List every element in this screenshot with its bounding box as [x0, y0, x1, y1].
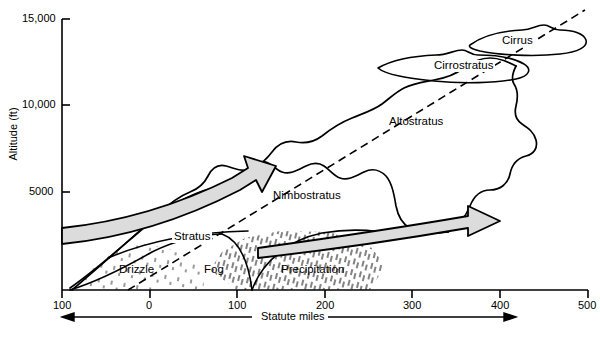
weather-label-drizzle: Drizzle [119, 264, 154, 276]
cloud-label-stratus: Stratus [172, 231, 212, 243]
y-tick-label-10000: 10,000 [22, 99, 56, 110]
x-tick-label-500: 500 [578, 300, 596, 311]
altostratus-right-flank [448, 66, 537, 232]
y-axis-title: Altitude (ft) [7, 99, 19, 169]
weather-label-fog: Fog [204, 264, 224, 276]
x-tick-label-300: 300 [403, 300, 421, 311]
figure-canvas: Altitude (ft) 15,000 10,000 5000 100 0 1… [0, 0, 600, 337]
warm-front-diagram [0, 0, 600, 337]
y-tick-label-5000: 5000 [29, 186, 53, 197]
x-tick-label-0: 0 [146, 300, 152, 311]
x-axis-title: Statute miles [258, 311, 328, 322]
weather-label-precipitation: Precipitation [281, 264, 344, 276]
x-tick-label-400: 400 [491, 300, 509, 311]
x-tick-label-100: 100 [228, 300, 246, 311]
x-tick-label--100: 100 [53, 300, 71, 311]
y-tick-label-15000: 15,000 [22, 13, 56, 24]
cloud-label-altostratus: Altostratus [389, 116, 443, 128]
cloud-label-cirrus: Cirrus [500, 35, 535, 47]
cloud-label-cirrostratus: Cirrostratus [432, 60, 495, 72]
cloud-label-nimbostratus: Nimbostratus [273, 190, 341, 202]
